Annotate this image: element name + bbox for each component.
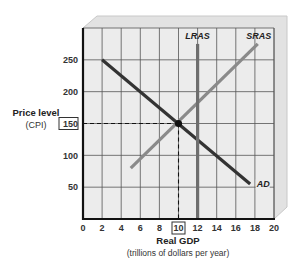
y-axis-ticks: 50100150200250 xyxy=(59,55,78,192)
x-tick-label: 2 xyxy=(100,223,105,233)
x-tick-label: 4 xyxy=(119,223,124,233)
x-axis-label: Real GDP xyxy=(156,235,200,246)
x-tick-label: 16 xyxy=(231,223,241,233)
y-axis-label: Price level xyxy=(12,107,59,118)
equilibrium-point xyxy=(175,120,182,127)
x-tick-label: 14 xyxy=(212,223,222,233)
y-tick-label: 50 xyxy=(68,182,78,192)
x-tick-label: 0 xyxy=(80,223,85,233)
x-tick-label: 6 xyxy=(138,223,143,233)
x-tick-label: 8 xyxy=(157,223,162,233)
x-tick-label: 18 xyxy=(250,223,260,233)
y-tick-label: 150 xyxy=(63,119,78,129)
ad-label: AD xyxy=(256,179,270,189)
y-tick-label: 100 xyxy=(63,151,78,161)
y-tick-label: 250 xyxy=(63,55,78,65)
aggregate-supply-demand-chart: 50100150200250 02468101214161820 ADSRASL… xyxy=(0,0,291,264)
sras-label: SRAS xyxy=(246,31,271,41)
x-tick-label: 20 xyxy=(269,223,279,233)
x-axis-sublabel: (trillions of dollars per year) xyxy=(127,248,230,258)
lras-label: LRAS xyxy=(185,31,210,41)
x-tick-label: 12 xyxy=(193,223,203,233)
y-tick-label: 200 xyxy=(63,87,78,97)
y-axis-sublabel: (CPI) xyxy=(26,120,47,130)
x-axis-ticks: 02468101214161820 xyxy=(80,222,279,234)
x-tick-label: 10 xyxy=(173,223,183,233)
